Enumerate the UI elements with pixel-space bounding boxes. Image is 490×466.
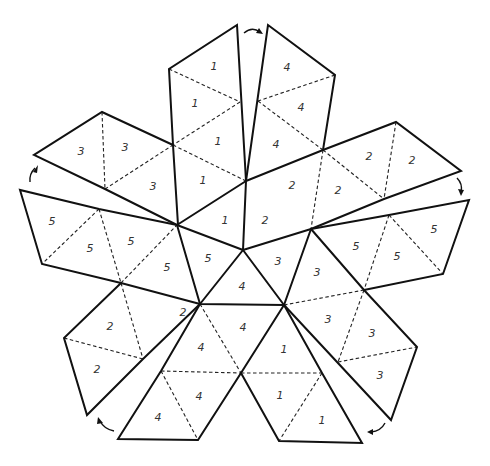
face-label-2: 2 (94, 363, 101, 376)
face-label-4: 4 (198, 341, 205, 354)
face-label-5: 5 (394, 250, 401, 263)
outline-edges (20, 25, 469, 443)
face-label-4: 4 (196, 390, 203, 403)
face-label-2: 2 (335, 184, 342, 197)
face-label-3: 3 (325, 313, 332, 326)
face-label-2: 2 (289, 179, 296, 192)
face-label-5: 5 (164, 261, 171, 274)
arrow-bottom-right-icon (367, 423, 385, 435)
face-label-1: 1 (192, 97, 199, 110)
face-label-5: 5 (87, 242, 94, 255)
net-svg: 1111144422222333555554335552224444333111 (0, 0, 490, 466)
face-label-4: 4 (284, 61, 291, 74)
face-label-3: 3 (150, 180, 157, 193)
face-label-1: 1 (319, 414, 326, 427)
face-label-2: 2 (180, 306, 187, 319)
arrow-left-icon (30, 165, 38, 182)
face-label-2: 2 (409, 154, 416, 167)
face-label-5: 5 (128, 235, 135, 248)
face-label-1: 1 (277, 389, 284, 402)
face-label-3: 3 (78, 145, 85, 158)
face-label-3: 3 (314, 266, 321, 279)
face-label-3: 3 (275, 255, 282, 268)
face-label-2: 2 (107, 320, 114, 333)
face-label-5: 5 (49, 215, 56, 228)
face-label-1: 1 (281, 343, 288, 356)
face-label-4: 4 (298, 101, 305, 114)
face-label-3: 3 (377, 369, 384, 382)
arrow-top-icon (244, 28, 263, 34)
face-label-5: 5 (431, 223, 438, 236)
face-label-4: 4 (273, 138, 280, 151)
arrow-right-icon (457, 178, 464, 196)
face-label-3: 3 (122, 141, 129, 154)
arrow-bottom-left-icon (97, 417, 114, 431)
face-label-2: 2 (366, 150, 373, 163)
face-label-1: 1 (215, 135, 222, 148)
face-label-4: 4 (155, 411, 162, 424)
face-label-5: 5 (205, 252, 212, 265)
polyhedron-net-diagram: 1111144422222333555554335552224444333111 (0, 0, 490, 466)
face-label-5: 5 (353, 240, 360, 253)
face-label-4: 4 (239, 280, 246, 293)
face-label-3: 3 (369, 327, 376, 340)
face-label-1: 1 (200, 174, 207, 187)
face-label-4: 4 (240, 321, 247, 334)
face-label-2: 2 (262, 214, 269, 227)
face-label-1: 1 (211, 60, 218, 73)
face-label-1: 1 (222, 214, 229, 227)
